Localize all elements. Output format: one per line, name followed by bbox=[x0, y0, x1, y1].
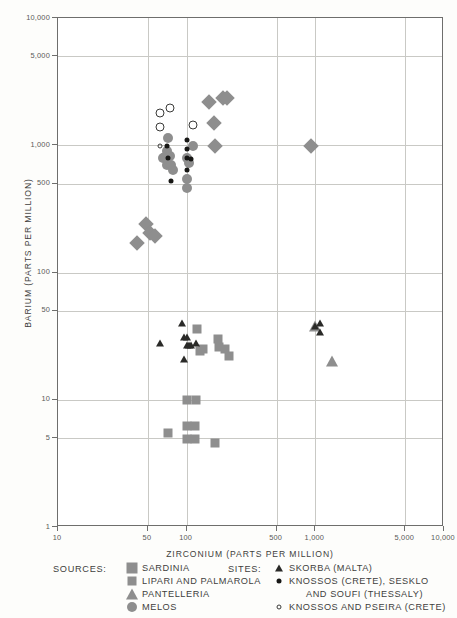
y-tickmark bbox=[52, 17, 57, 18]
legend-label: SKORBA (MALTA) bbox=[289, 562, 372, 574]
legend: SOURCES: SITES: SARDINIA LIPARI AND PALM… bbox=[0, 560, 457, 618]
x-tickmark bbox=[276, 526, 277, 531]
x-tick-label: 10,000 bbox=[413, 533, 457, 542]
legend-label: KNOSSOS AND PSEIRA (CRETE) bbox=[289, 601, 446, 613]
legend-label-continued: AND SOUFI (THESSALY) bbox=[306, 588, 423, 600]
square-icon bbox=[125, 575, 139, 587]
y-tickmark bbox=[52, 310, 57, 311]
legend-label: SARDINIA bbox=[142, 562, 190, 574]
x-tick-label: 10 bbox=[27, 533, 87, 542]
y-tickmark bbox=[52, 183, 57, 184]
x-tickmark bbox=[186, 526, 187, 531]
x-tickmark bbox=[404, 526, 405, 531]
legend-label: MELOS bbox=[142, 601, 177, 613]
triangle-icon bbox=[125, 588, 139, 600]
y-tickmark bbox=[52, 272, 57, 273]
triangle-small-icon bbox=[272, 562, 286, 574]
circle-icon bbox=[125, 601, 139, 613]
y-tick-label: 5 bbox=[0, 433, 50, 442]
y-tickmark bbox=[52, 55, 57, 56]
scatter-plot-figure: 1510501005001,0005,00010,00010501005001,… bbox=[0, 0, 457, 618]
y-tickmark bbox=[52, 144, 57, 145]
axis-layer: 1510501005001,0005,00010,00010501005001,… bbox=[0, 0, 457, 618]
y-axis-title: BARIUM (PARTS PER MILLION) bbox=[23, 103, 33, 403]
legend-sources-heading: SOURCES: bbox=[53, 564, 107, 574]
x-tickmark bbox=[57, 526, 58, 531]
y-tickmark bbox=[52, 399, 57, 400]
x-tickmark bbox=[443, 526, 444, 531]
legend-label: PANTELLERIA bbox=[142, 588, 210, 600]
x-axis-title: ZIRCONIUM (PARTS PER MILLION) bbox=[57, 549, 443, 559]
legend-label: KNOSSOS (CRETE), SESKLO bbox=[289, 575, 429, 587]
dot-icon bbox=[272, 575, 286, 587]
y-tickmark bbox=[52, 437, 57, 438]
legend-sites-heading: SITES: bbox=[228, 564, 261, 574]
diamond-icon bbox=[125, 562, 139, 574]
y-tick-label: 10,000 bbox=[0, 13, 50, 22]
y-tick-label: 1 bbox=[0, 522, 50, 531]
y-tick-label: 5,000 bbox=[0, 51, 50, 60]
x-tick-label: 1,000 bbox=[284, 533, 344, 542]
x-tickmark bbox=[147, 526, 148, 531]
open-circle-icon bbox=[272, 601, 286, 613]
x-tickmark bbox=[314, 526, 315, 531]
x-tick-label: 100 bbox=[156, 533, 216, 542]
legend-label: LIPARI AND PALMAROLA bbox=[142, 575, 261, 587]
